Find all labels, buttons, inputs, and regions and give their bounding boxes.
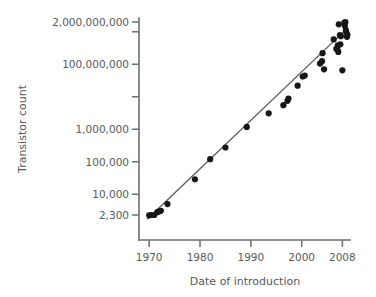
data-point <box>158 208 164 214</box>
y-tick-label: 10,000 <box>92 188 129 200</box>
data-point <box>266 110 272 116</box>
y-axis-group: 2,000,000,000100,000,0001,000,000100,000… <box>52 16 139 240</box>
data-point <box>192 176 198 182</box>
data-point <box>319 58 325 64</box>
data-point <box>331 36 337 42</box>
x-axis-group: 19701980199020002008 <box>136 240 356 263</box>
x-axis-title: Date of introduction <box>190 275 300 288</box>
data-point <box>339 67 345 73</box>
x-tick-label: 2000 <box>288 251 315 263</box>
data-point <box>302 72 308 78</box>
data-point <box>336 21 342 27</box>
data-point <box>337 41 343 47</box>
data-point <box>207 156 213 162</box>
y-axis-title: Transistor count <box>16 84 29 174</box>
y-axis-tick-labels: 2,000,000,000100,000,0001,000,000100,000… <box>52 16 129 221</box>
transistor-count-chart: 2,000,000,000100,000,0001,000,000100,000… <box>0 0 376 297</box>
data-point <box>222 144 228 150</box>
data-point <box>164 201 170 207</box>
data-point <box>295 83 301 89</box>
data-point <box>244 124 250 130</box>
y-tick-label: 2,000,000,000 <box>52 16 129 28</box>
x-tick-label: 2008 <box>329 251 356 263</box>
chart-canvas: 2,000,000,000100,000,0001,000,000100,000… <box>0 0 376 297</box>
x-axis-ticks <box>149 240 342 247</box>
x-axis-tick-labels: 19701980199020002008 <box>136 251 356 263</box>
data-point <box>319 50 325 56</box>
data-point <box>344 32 350 38</box>
data-point <box>285 95 291 101</box>
data-point <box>342 19 348 25</box>
y-tick-label: 100,000 <box>86 156 129 168</box>
y-axis-ticks <box>132 22 139 215</box>
x-tick-label: 1980 <box>187 251 214 263</box>
data-point <box>338 33 344 39</box>
x-tick-label: 1990 <box>237 251 264 263</box>
y-tick-label: 2,300 <box>99 209 129 221</box>
x-tick-label: 1970 <box>136 251 163 263</box>
scatter-points-group <box>146 19 350 219</box>
y-tick-label: 1,000,000 <box>76 123 129 135</box>
data-point <box>321 66 327 72</box>
y-tick-label: 100,000,000 <box>62 58 129 70</box>
data-point <box>335 49 341 55</box>
